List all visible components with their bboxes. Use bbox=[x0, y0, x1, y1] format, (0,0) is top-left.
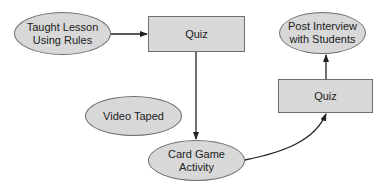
flowchart-diagram: Taught Lesson Using Rules Quiz Video Tap… bbox=[0, 0, 387, 191]
node-label: Quiz bbox=[185, 28, 208, 41]
node-taught-lesson: Taught Lesson Using Rules bbox=[14, 12, 111, 55]
node-label: Post Interview with Students bbox=[288, 20, 357, 46]
node-label: Quiz bbox=[314, 90, 337, 103]
node-card-game-activity: Card Game Activity bbox=[148, 140, 245, 181]
node-quiz-2: Quiz bbox=[278, 79, 373, 113]
node-video-taped: Video Taped bbox=[85, 96, 182, 136]
edge-card-game-to-quiz-2 bbox=[245, 114, 326, 160]
node-post-interview: Post Interview with Students bbox=[279, 12, 366, 54]
node-label: Taught Lesson Using Rules bbox=[27, 21, 99, 47]
node-label: Card Game Activity bbox=[168, 148, 225, 174]
node-label: Video Taped bbox=[103, 110, 164, 123]
node-quiz-1: Quiz bbox=[148, 16, 245, 52]
